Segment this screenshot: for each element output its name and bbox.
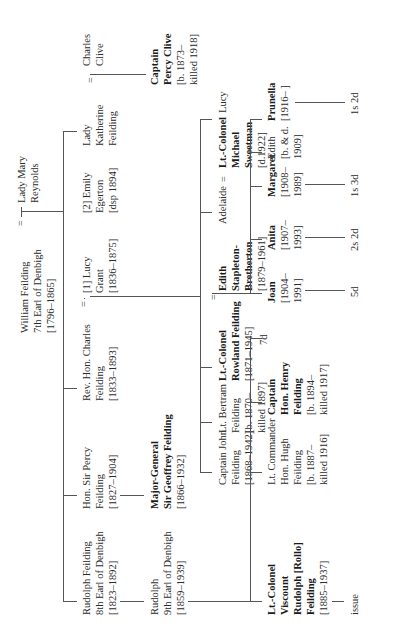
dates-line: [1796–1865] <box>44 249 57 333</box>
dates-line: [1866–1932] <box>174 414 187 509</box>
drop-charles <box>63 388 77 389</box>
prunella-node: Prunella [1916– ] <box>265 83 291 122</box>
dates-line: [b. 1873– <box>174 34 187 85</box>
charles-clive-node: Charles Clive <box>80 34 106 66</box>
edith-child-node: Edith [b. & d. 1909] <box>265 126 304 159</box>
rank-line: Major-General <box>148 414 161 509</box>
charles-feilding-node: Rev. Hon. Charles Feilding [1833–1893] <box>80 324 119 401</box>
drop-rollo <box>250 601 262 602</box>
william-feilding-node: William Feilding 7th Earl of Denbigh [17… <box>18 249 57 333</box>
drop-rudolph <box>63 601 77 602</box>
rudolph-9th-earl-node: Rudolph 9th Earl of Denbigh [1859–1939] <box>148 531 187 615</box>
descent-line <box>21 211 63 212</box>
name-line: Sweetman <box>242 117 255 168</box>
name-line: Percy Clive <box>161 34 174 85</box>
anita-issue-label: 2s 2d <box>348 229 361 251</box>
percy-clive-node: Captain Percy Clive [b. 1873– killed 191… <box>148 34 200 85</box>
drop-percy <box>63 495 77 496</box>
descent-edith <box>212 293 250 294</box>
rank-line: Lt.-Colonel <box>216 301 229 381</box>
dates-line: [dsp 1894] <box>106 168 119 213</box>
lucy-charles-marriage-line <box>84 298 85 299</box>
drop-henry <box>250 402 262 403</box>
drop-bertram <box>200 422 212 423</box>
rowland-children-bar <box>250 339 251 602</box>
name-line: Lt. Bertram <box>216 382 229 433</box>
margaret-issue-label: 1s 3d <box>348 175 361 197</box>
dates-line: 1993] <box>291 220 304 250</box>
dates-line: [1907– <box>278 220 291 250</box>
lucy-node: Lucy <box>216 91 229 113</box>
margaret-node: Margaret [1908– 1989] <box>265 154 304 197</box>
edith-children-bar <box>250 120 251 294</box>
dates-line: 1989] <box>291 154 304 197</box>
marriage-line <box>21 207 22 217</box>
name-line: Clive <box>93 34 106 66</box>
name-line: Margaret <box>265 154 278 197</box>
name-line: Katherine <box>93 105 106 146</box>
dates-line: [b. & d. <box>278 126 291 159</box>
marriage-marker: = <box>15 220 27 226</box>
rank-line: Lt. Commander <box>265 419 278 486</box>
anita-node: Anita [1907– 1993] <box>265 220 304 250</box>
drop-joan <box>250 293 262 294</box>
name-line: [2] Emily <box>80 168 93 213</box>
edith-stapleton-bretherton-node: Edith Stapleton- Bretherton [1879–1961] <box>216 237 268 291</box>
name-line: Lady Mary <box>15 156 28 203</box>
dates-line: [b. 1887– <box>304 419 317 486</box>
name-line: Egerton <box>93 168 106 213</box>
name-line: Feilding <box>291 419 304 486</box>
drop-anita <box>250 239 262 240</box>
descent-prunella-issue <box>295 102 345 103</box>
descent-margaret-issue <box>305 184 345 185</box>
name-line: Hon. Sir Percy <box>80 447 93 509</box>
joan-node: Joan [1904– 1991] <box>265 273 304 303</box>
name-line: Edith <box>265 126 278 159</box>
lucy-grant-node: [1] Lucy Grant [1836–1875] <box>80 239 119 293</box>
name-line: Adelaide <box>216 186 229 224</box>
name-line: Feilding <box>93 447 106 509</box>
name-line: Rowland Feilding <box>229 301 242 381</box>
name-line: Edith <box>216 237 229 291</box>
descent-rollo-issue <box>332 601 344 602</box>
name-line: Prunella <box>265 83 278 122</box>
lady-mary-reynolds-node: Lady Mary Reynolds <box>15 156 41 203</box>
dates-line: [1833–1893] <box>106 324 119 401</box>
dates-line: [1885–1937] <box>317 542 330 615</box>
prunella-issue-label: 1s 2d <box>348 93 361 115</box>
name-line: William Feilding <box>18 249 31 333</box>
name-line: Charles <box>80 34 93 66</box>
descent-clive <box>90 74 146 75</box>
sibling-bar <box>63 132 64 602</box>
marriage-marker: = <box>218 176 230 182</box>
hugh-feilding-node: Lt. Commander Hon. Hugh Feilding [b. 188… <box>265 419 330 486</box>
rank-line: Captain <box>265 362 278 415</box>
name-line: Grant <box>93 239 106 293</box>
name-line: Feilding <box>304 542 317 615</box>
name-line: Stapleton- <box>229 237 242 291</box>
descent-rudolph-9th <box>188 601 250 602</box>
marriage-marker: = <box>78 301 90 307</box>
sibling-bar <box>200 120 201 473</box>
rollo-issue-label: issue <box>348 594 361 615</box>
henry-feilding-node: Captain Hon. Henry Feilding [b. 1894– ki… <box>265 362 330 415</box>
name-line: Michael <box>229 117 242 168</box>
title-line: Viscount <box>278 542 291 615</box>
percy-feilding-node: Hon. Sir Percy Feilding [1827–1904] <box>80 447 119 509</box>
name-line: Feilding <box>106 105 119 146</box>
name-line: Sir Geoffrey Feilding <box>161 414 174 509</box>
name-line: Hon. Hugh <box>278 419 291 486</box>
dates-line: [b. 1870– <box>242 382 255 433</box>
name-line: Rev. Hon. Charles <box>80 324 93 401</box>
name-line: Joan <box>265 273 278 303</box>
marriage-marker: = <box>208 294 220 300</box>
name-line: Feilding <box>93 324 106 401</box>
name-line: Reynolds <box>28 156 41 203</box>
title-line: 9th Earl of Denbigh <box>161 531 174 615</box>
dates-line: [1908– <box>278 154 291 197</box>
dates-line: [1827–1904] <box>106 447 119 509</box>
drop-margaret <box>250 186 262 187</box>
drop-rowland <box>200 367 212 368</box>
geoffrey-feilding-node: Major-General Sir Geoffrey Feilding [186… <box>148 414 187 509</box>
dates-line: [1823–1892] <box>106 531 119 615</box>
